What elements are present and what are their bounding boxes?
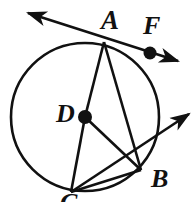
segment-AD bbox=[85, 42, 104, 117]
point-label-c: C bbox=[60, 190, 77, 202]
point-label-b: B bbox=[151, 166, 168, 192]
point-label-a: A bbox=[101, 7, 119, 34]
point-label-d: D bbox=[56, 101, 75, 127]
geometry-figure: A F D B C bbox=[0, 0, 195, 202]
point-label-f: F bbox=[143, 13, 160, 39]
point-dot-F bbox=[144, 47, 157, 60]
ray-through-B bbox=[71, 114, 189, 192]
segment-DC bbox=[71, 117, 85, 192]
point-dot-D bbox=[78, 110, 92, 124]
